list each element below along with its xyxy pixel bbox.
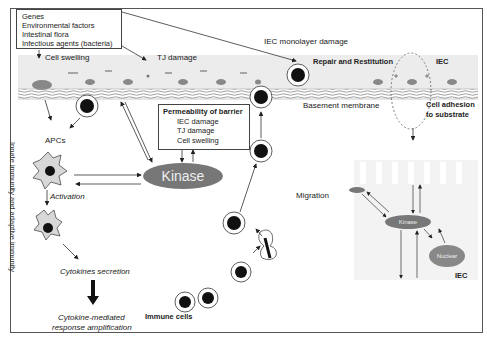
cytokine-response-label-1: Cytokine-mediated (58, 314, 125, 322)
immune-cells-label: Immune cells (145, 313, 193, 321)
basement-membrane-label: Basement membrane (303, 102, 379, 110)
cell-adhesion-label-2: to substrate (426, 111, 469, 119)
permeability-item-cell-swelling: Cell swelling (163, 136, 245, 146)
iec-bottom-label: IEC (455, 272, 468, 280)
factor-flora: Intestinal flora (22, 30, 116, 39)
apcs-label: APCs (45, 137, 65, 145)
activation-label: Activation (50, 193, 85, 201)
cytokine-response-label-2: response amplification (52, 324, 132, 332)
factor-genes: Genes (22, 12, 116, 21)
tj-damage-label: TJ damage (157, 54, 197, 62)
permeability-item-tj-damage: TJ damage (163, 126, 245, 136)
cytokines-secretion-label: Cytokines secretion (60, 268, 130, 276)
causal-factors-box: Genes Environmental factors Intestinal f… (16, 9, 122, 49)
kinase-node: Kinase (143, 163, 223, 189)
iec-monolayer-damage-label: IEC monolayer damage (264, 38, 348, 46)
migration-label: Migration (296, 192, 329, 200)
factor-environmental: Environmental factors (22, 21, 116, 30)
permeability-item-iec-damage: IEC damage (163, 117, 245, 127)
innate-adaptive-immunity-label: Innate immunity and adaptive immunity (8, 142, 17, 272)
iec-top-label: IEC (436, 58, 449, 66)
permeability-title: Permeability of barrier (163, 107, 245, 117)
permeability-box: Permeability of barrier IEC damage TJ da… (158, 104, 250, 150)
factor-infectious: Infectious agents (bacteria) (22, 39, 116, 48)
cell-adhesion-label-1: Cell adhesion (426, 101, 475, 109)
repair-restitution-label: Repair and Restitution (313, 58, 393, 66)
nuclear-node: Nuclear (429, 245, 465, 267)
kinase-small-node: Kinase (385, 215, 431, 229)
cell-swelling-label: Cell swelling (45, 54, 89, 62)
